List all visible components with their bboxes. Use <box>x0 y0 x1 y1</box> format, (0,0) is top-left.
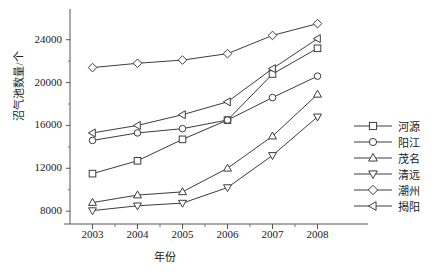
x-tick-label: 2006 <box>206 228 250 240</box>
legend-marker <box>369 171 378 179</box>
legend-marker <box>368 185 377 194</box>
legend-label: 揭阳 <box>394 198 420 214</box>
legend-label: 潮州 <box>394 182 420 198</box>
x-tick-label: 2004 <box>116 228 160 240</box>
legend-label: 河源 <box>394 118 420 134</box>
legend-item-阳江[interactable]: 阳江 <box>352 134 420 150</box>
legend-marker <box>369 138 376 145</box>
legend-label: 阳江 <box>394 134 420 150</box>
legend-symbol-diamond-icon <box>352 182 394 198</box>
legend-symbol-triangle-left-icon <box>352 198 394 214</box>
line-chart: 沼气池数量/个 800012000160002000024000 2003200… <box>0 0 447 275</box>
legend-item-茂名[interactable]: 茂名 <box>352 150 420 166</box>
x-tick-label: 2007 <box>251 228 295 240</box>
legend-marker <box>369 202 377 211</box>
legend-item-河源[interactable]: 河源 <box>352 118 420 134</box>
x-tick-label: 2003 <box>71 228 115 240</box>
x-tick-label: 2005 <box>161 228 205 240</box>
x-axis-title: 年份 <box>0 248 330 264</box>
legend-symbol-circle-icon <box>352 134 394 150</box>
legend-label: 茂名 <box>394 150 420 166</box>
legend-marker <box>369 154 378 162</box>
legend-item-潮州[interactable]: 潮州 <box>352 182 420 198</box>
legend-item-揭阳[interactable]: 揭阳 <box>352 198 420 214</box>
legend-label: 清远 <box>394 166 420 182</box>
legend-marker <box>369 122 376 129</box>
legend: 河源阳江茂名清远潮州揭阳 <box>352 118 420 214</box>
legend-symbol-triangle-down-icon <box>352 166 394 182</box>
legend-item-清远[interactable]: 清远 <box>352 166 420 182</box>
legend-symbol-triangle-up-icon <box>352 150 394 166</box>
x-tick-label: 2008 <box>296 228 340 240</box>
legend-symbol-square-icon <box>352 118 394 134</box>
